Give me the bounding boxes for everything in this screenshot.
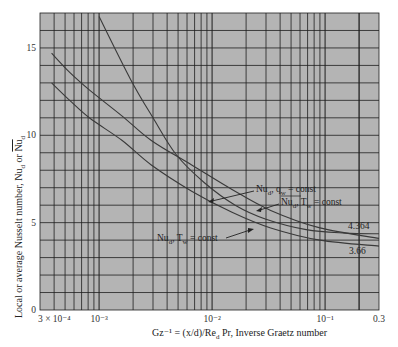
asymptote-upper-label: 4.364 <box>348 221 370 231</box>
x-tick-label: 0.3 <box>373 314 385 324</box>
y-tick-label: 0 <box>31 305 36 315</box>
y-tick-label: 5 <box>31 218 36 228</box>
x-axis-title: Gz⁻¹ = (x/d)/Red Pr, Inverse Graetz numb… <box>152 327 328 341</box>
y-tick-label: 15 <box>27 43 37 53</box>
y-axis-title: Local or average Nusselt number, Nud or … <box>13 135 27 318</box>
asymptote-lower-label: 3.66 <box>349 246 366 256</box>
chart-canvas: 3 × 10⁻⁴10⁻³10⁻²10⁻¹0.3051015 Nud, qw = … <box>0 0 398 347</box>
y-tick-label: 10 <box>27 130 37 140</box>
x-tick-label: 3 × 10⁻⁴ <box>38 314 71 324</box>
x-tick-label: 10⁻¹ <box>316 314 334 324</box>
plot-area <box>40 13 379 310</box>
x-tick-label: 10⁻² <box>203 314 221 324</box>
x-tick-label: 10⁻³ <box>90 314 108 324</box>
